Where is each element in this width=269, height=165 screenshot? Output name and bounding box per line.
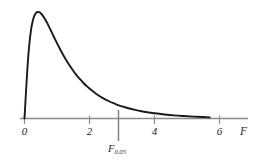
x-tick-label-4: 4 bbox=[145, 126, 165, 137]
critical-value-label: F0.05 bbox=[108, 144, 126, 155]
x-tick-label-0: 0 bbox=[15, 126, 35, 137]
plot-canvas bbox=[0, 0, 269, 165]
x-axis-title: F bbox=[240, 126, 247, 138]
density-curve bbox=[25, 12, 210, 119]
x-tick-label-6: 6 bbox=[210, 126, 230, 137]
critical-value-label-subscript: 0.05 bbox=[114, 148, 126, 155]
x-tick-label-2: 2 bbox=[80, 126, 100, 137]
f-distribution-figure: 0 2 4 6 F F0.05 bbox=[0, 0, 269, 165]
